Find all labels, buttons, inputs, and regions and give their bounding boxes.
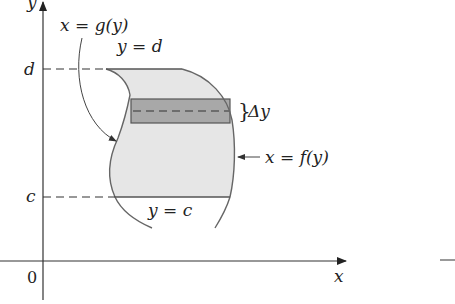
g-pointer-arrow <box>79 38 116 141</box>
c-tick-label: c <box>26 186 36 206</box>
d-tick-label: d <box>24 59 35 79</box>
f-curve-label: x = f(y) <box>265 147 329 167</box>
bottom-bound-label: y = c <box>147 200 193 220</box>
diagram-canvas: y x 0 d c x = g(y) y = d y = c x = f(y) … <box>0 0 455 304</box>
delta-y-label: Δy <box>247 101 270 121</box>
top-bound-label: y = d <box>116 36 163 56</box>
origin-label: 0 <box>27 268 37 287</box>
x-axis-label: x <box>334 266 344 286</box>
g-curve-label: x = g(y) <box>60 15 128 35</box>
y-axis-label: y <box>26 0 37 12</box>
